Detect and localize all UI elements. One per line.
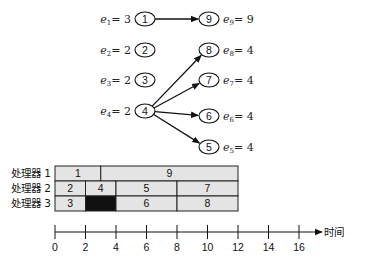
node-weight-label: e6= 4 [223, 110, 254, 124]
task-block-label: 4 [98, 182, 104, 194]
node-label: 5 [206, 141, 212, 153]
task-node-4: 4e4= 2 [100, 104, 155, 119]
processor-label: 处理器 2 [11, 182, 51, 194]
node-label: 8 [206, 44, 212, 56]
axis-tick-label: 14 [263, 241, 275, 253]
processor-label: 处理器 1 [11, 167, 51, 179]
node-label: 2 [142, 44, 148, 56]
task-node-9: 9e9= 9 [199, 12, 254, 27]
idle-block [86, 196, 117, 211]
axis-tick-label: 16 [293, 241, 305, 253]
axis-tick-label: 12 [232, 241, 244, 253]
processor-row-2: 处理器 22457 [11, 181, 238, 196]
task-node-5: 5e5= 4 [199, 140, 254, 155]
node-weight-label: e4= 2 [100, 105, 131, 119]
node-label: 4 [142, 105, 148, 117]
task-block-label: 3 [67, 197, 73, 209]
axis-tick-label: 2 [83, 241, 89, 253]
node-weight-label: e3= 2 [100, 74, 131, 88]
task-node-1: 1e1= 3 [100, 12, 155, 27]
gantt-chart: 处理器 119处理器 22457处理器 3368 [11, 166, 238, 211]
task-node-3: 3e3= 2 [100, 73, 155, 88]
task-block-label: 8 [205, 197, 211, 209]
task-node-7: 7e7= 4 [199, 73, 254, 88]
task-graph: 1e1= 32e2= 23e3= 24e4= 29e9= 98e8= 47e7=… [100, 12, 253, 155]
node-weight-label: e1= 3 [100, 13, 131, 27]
axis-tick-label: 4 [113, 241, 119, 253]
edge-4-to-8 [152, 56, 201, 107]
task-block-label: 2 [67, 182, 73, 194]
task-node-8: 8e8= 4 [199, 43, 254, 58]
axis-tick-label: 8 [174, 241, 180, 253]
task-block-label: 1 [75, 167, 81, 179]
task-block-label: 9 [166, 167, 172, 179]
edge-4-to-7 [154, 83, 199, 107]
axis-tick-label: 6 [144, 241, 150, 253]
axis-tick-label: 10 [202, 241, 214, 253]
node-label: 3 [142, 74, 148, 86]
task-schedule-figure: 1e1= 32e2= 23e3= 24e4= 29e9= 98e8= 47e7=… [0, 0, 366, 260]
time-axis: 0246810121416时间 [52, 225, 344, 253]
node-label: 6 [206, 110, 212, 122]
processor-label: 处理器 3 [11, 197, 51, 209]
edge-4-to-5 [154, 114, 200, 143]
processor-row-3: 处理器 3368 [11, 196, 238, 211]
task-block-label: 6 [144, 197, 150, 209]
node-weight-label: e2= 2 [100, 44, 131, 58]
edge-4-to-6 [155, 112, 198, 116]
axis-title: 时间 [324, 226, 344, 238]
node-label: 7 [206, 74, 212, 86]
task-node-6: 6e6= 4 [199, 109, 254, 124]
node-label: 9 [206, 13, 212, 25]
processor-row-1: 处理器 119 [11, 166, 238, 181]
task-block-label: 5 [144, 182, 150, 194]
node-weight-label: e5= 4 [223, 141, 254, 155]
node-label: 1 [142, 13, 148, 25]
node-weight-label: e7= 4 [223, 74, 254, 88]
axis-tick-label: 0 [52, 241, 58, 253]
node-weight-label: e8= 4 [223, 44, 254, 58]
node-weight-label: e9= 9 [223, 13, 254, 27]
task-block-label: 7 [205, 182, 211, 194]
task-node-2: 2e2= 2 [100, 43, 155, 58]
